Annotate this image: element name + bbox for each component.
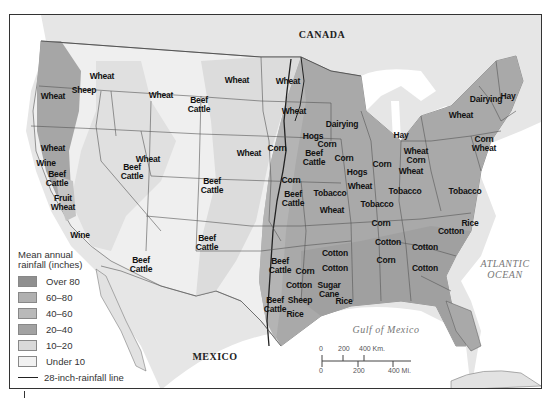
water-label-atlantic: ATLANTIC OCEAN xyxy=(480,258,529,280)
crop-label: Tobacco xyxy=(389,187,422,196)
crop-label: Cotton xyxy=(286,281,312,290)
scale-km-200: 200 xyxy=(338,345,350,352)
country-label-mexico: MEXICO xyxy=(192,351,237,362)
crop-label: Wine xyxy=(36,159,55,168)
legend-label: 20–40 xyxy=(46,324,72,335)
crop-label: Tobacco xyxy=(361,200,394,209)
legend-item-60-80: 60–80 xyxy=(18,289,138,305)
crop-label: Corn xyxy=(334,154,353,163)
crop-label: Wine xyxy=(70,231,89,240)
crop-label: Tobacco xyxy=(314,189,347,198)
crop-label: Corn xyxy=(281,176,300,185)
legend-item-40-60: 40–60 xyxy=(18,305,138,321)
legend-item-10-20: 10–20 xyxy=(18,337,138,353)
crop-label: Corn Wheat xyxy=(472,135,497,153)
crop-label: Rice xyxy=(335,297,352,306)
legend-label: 40–60 xyxy=(46,308,72,319)
crop-label: Wheat Corn xyxy=(404,147,429,165)
crop-label: Sheep xyxy=(288,296,313,305)
crop-label: Beef Cattle xyxy=(303,149,325,167)
scale-km-0: 0 xyxy=(319,345,323,352)
scale-mi-400: 400 Mi. xyxy=(388,367,411,374)
crop-label: Wheat xyxy=(237,149,262,158)
crop-label: Cotton xyxy=(375,238,401,247)
legend-label: Under 10 xyxy=(46,356,85,367)
crop-label: Beef Cattle xyxy=(269,257,291,275)
crop-label: Cotton xyxy=(322,264,348,273)
crop-label: Hogs xyxy=(347,168,367,177)
crop-label: Cotton xyxy=(322,249,348,258)
crop-label: Dairying xyxy=(326,120,358,129)
crop-label: Wheat xyxy=(149,91,174,100)
crop-label: Hay xyxy=(394,131,409,140)
scale-km-400: 400 Km. xyxy=(359,345,385,352)
crop-label: Wheat xyxy=(41,144,66,153)
crop-label: Beef Cattle xyxy=(121,163,143,181)
crop-label: Corn xyxy=(376,256,395,265)
crop-label: Cotton xyxy=(438,227,464,236)
crop-label: Wheat xyxy=(399,167,424,176)
legend-swatch xyxy=(18,340,37,351)
crop-label: Dairying xyxy=(470,95,502,104)
crop-label: Wheat xyxy=(41,92,66,101)
crop-label: Wheat xyxy=(90,72,115,81)
scale-mi-0: 0 xyxy=(319,367,323,374)
crop-label: Wheat xyxy=(282,107,307,116)
crop-label: Wheat xyxy=(348,182,373,191)
crop-label: Fruit Wheat xyxy=(51,194,76,212)
crop-label: Beef Cattle xyxy=(46,170,68,188)
legend-swatch xyxy=(18,276,37,287)
rainfall-legend: Mean annual rainfall (inches) Over 80 60… xyxy=(18,250,138,385)
crop-label: Beef Cattle xyxy=(264,296,286,314)
legend-swatch xyxy=(18,356,37,367)
legend-item-20-40: 20–40 xyxy=(18,321,138,337)
legend-label: 10–20 xyxy=(46,340,72,351)
crop-label: Beef Cattle xyxy=(282,190,304,208)
crop-label: Wheat xyxy=(449,111,474,120)
legend-title: Mean annual rainfall (inches) xyxy=(18,250,138,270)
crop-label: Corn xyxy=(295,267,314,276)
crop-label: Cotton xyxy=(412,264,438,273)
crop-label: Corn xyxy=(267,144,286,153)
crop-label: Wheat xyxy=(225,76,250,85)
crop-label: Corn xyxy=(372,160,391,169)
page-tick-mark xyxy=(24,391,25,398)
legend-label: 60–80 xyxy=(46,292,72,303)
crop-label: Rice xyxy=(286,310,303,319)
legend-swatch xyxy=(18,324,37,335)
crop-label: Hay xyxy=(501,92,516,101)
crop-label: Wheat xyxy=(276,77,301,86)
country-label-canada: CANADA xyxy=(299,29,345,40)
crop-label: Cotton xyxy=(412,243,438,252)
crop-label: Corn xyxy=(371,219,390,228)
scale-mi-200: 200 xyxy=(353,367,365,374)
crop-label: Beef Cattle xyxy=(201,177,223,195)
crop-label: Wheat xyxy=(320,206,345,215)
legend-item-over-80: Over 80 xyxy=(18,273,138,289)
legend-label: 28-inch-rainfall line xyxy=(44,372,124,383)
rainfall-line-icon xyxy=(18,377,38,378)
crop-label: Sheep xyxy=(72,86,97,95)
legend-swatch xyxy=(18,308,37,319)
crop-label: Beef Cattle xyxy=(196,234,218,252)
crop-label: Tobacco xyxy=(449,187,482,196)
legend-label: Over 80 xyxy=(46,276,80,287)
water-label-gulf: Gulf of Mexico xyxy=(353,324,420,335)
crop-label: Beef Cattle xyxy=(188,96,210,114)
legend-item-rainfall-line: 28-inch-rainfall line xyxy=(18,369,138,385)
legend-item-under-10: Under 10 xyxy=(18,353,138,369)
legend-swatch xyxy=(18,292,37,303)
